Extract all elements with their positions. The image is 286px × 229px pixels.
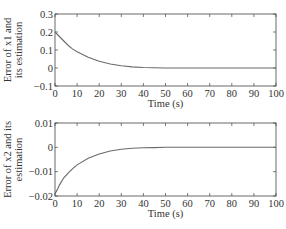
- subplot-1: 01020304050607080901000.30.20.10−0.1Time…: [2, 9, 284, 111]
- y-axis-label: estimation: [13, 137, 24, 181]
- chart-figure: 01020304050607080901000.30.20.10−0.1Time…: [0, 0, 286, 229]
- x-tick-label: 0: [52, 198, 57, 209]
- plot-frame: [55, 14, 276, 86]
- y-tick-label: −0.02: [29, 191, 53, 202]
- y-tick-label: 0: [48, 63, 53, 74]
- x-tick-label: 90: [249, 198, 260, 209]
- x-tick-label: 100: [268, 198, 284, 209]
- x-tick-label: 70: [204, 88, 215, 99]
- y-tick-label: 0.1: [40, 45, 53, 56]
- x-tick-label: 30: [116, 88, 127, 99]
- x-tick-label: 60: [182, 88, 193, 99]
- x-axis-label: Time (s): [148, 98, 184, 110]
- x-axis-label: Time (s): [148, 208, 184, 220]
- x-tick-label: 60: [182, 198, 193, 209]
- subplot-2: 01020304050607080901000.010−0.01−0.02Tim…: [2, 118, 284, 221]
- x-tick-label: 30: [116, 198, 127, 209]
- y-tick-label: −0.1: [34, 81, 53, 92]
- y-axis-label: Error of x1 and: [2, 17, 13, 82]
- series-line: [55, 32, 276, 68]
- y-axis-label: its estimation: [13, 21, 24, 78]
- x-tick-label: 0: [52, 88, 57, 99]
- y-tick-label: 0.01: [35, 118, 53, 129]
- x-tick-label: 80: [227, 198, 238, 209]
- x-tick-label: 70: [204, 198, 215, 209]
- x-tick-label: 10: [72, 198, 83, 209]
- x-tick-label: 80: [227, 88, 238, 99]
- x-tick-label: 90: [249, 88, 260, 99]
- y-tick-label: −0.01: [29, 166, 53, 177]
- y-tick-label: 0.2: [40, 27, 53, 38]
- x-tick-label: 10: [72, 88, 83, 99]
- x-tick-label: 20: [94, 88, 105, 99]
- x-tick-label: 20: [94, 198, 105, 209]
- series-line: [55, 147, 276, 193]
- y-tick-label: 0: [48, 142, 53, 153]
- y-axis-label: Error of x2 and its: [2, 121, 13, 198]
- x-tick-label: 100: [268, 88, 284, 99]
- y-tick-label: 0.3: [40, 9, 53, 20]
- plot-frame: [55, 123, 276, 196]
